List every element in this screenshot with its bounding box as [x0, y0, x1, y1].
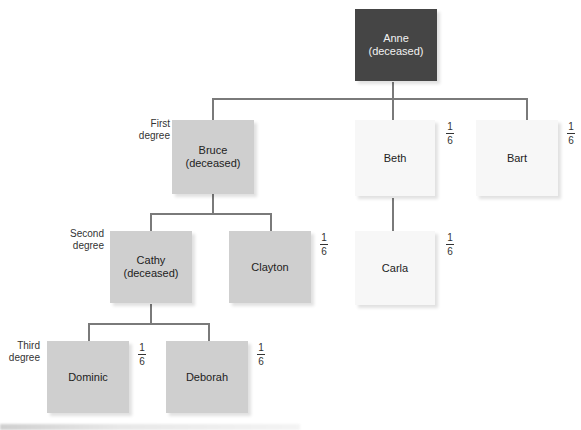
share-fraction-beth: 16	[446, 121, 454, 146]
person-node-clayton: Clayton	[229, 231, 311, 303]
share-fraction-deborah: 16	[257, 342, 265, 367]
share-fraction-bart: 16	[567, 121, 575, 146]
connector-cathy-up	[150, 213, 152, 232]
person-node-beth: Beth	[355, 120, 435, 196]
person-node-dominic: Dominic	[47, 341, 129, 413]
connector-gen1-horizontal	[212, 98, 528, 100]
person-node-cathy: Cathy(deceased)	[110, 231, 192, 303]
share-fraction-clayton: 16	[320, 232, 328, 257]
share-fraction-carla: 16	[446, 232, 454, 257]
connector-anne-down	[392, 82, 394, 99]
degree-label-second: Seconddegree	[52, 228, 104, 252]
connector-gen3-horizontal	[88, 323, 210, 325]
connector-gen2-horizontal	[150, 213, 272, 215]
connector-bart-up	[526, 98, 528, 120]
person-node-bart: Bart	[476, 120, 558, 196]
cropped-caption-strip	[0, 424, 300, 430]
degree-label-third: Thirddegree	[0, 340, 40, 364]
person-node-bruce: Bruce(deceased)	[172, 120, 254, 194]
connector-bruce-up	[212, 98, 214, 120]
connector-beth-carla	[392, 198, 394, 232]
person-node-anne: Anne(deceased)	[355, 9, 437, 81]
connector-clayton-up	[270, 213, 272, 232]
person-node-carla: Carla	[355, 231, 435, 305]
connector-deborah-up	[208, 323, 210, 342]
connector-beth-up	[392, 98, 394, 120]
share-fraction-dominic: 16	[138, 342, 146, 367]
degree-label-first: Firstdegree	[118, 118, 170, 142]
connector-dominic-up	[88, 323, 90, 342]
connector-cathy-down	[150, 304, 152, 324]
connector-bruce-down	[212, 194, 214, 214]
person-node-deborah: Deborah	[166, 341, 248, 413]
